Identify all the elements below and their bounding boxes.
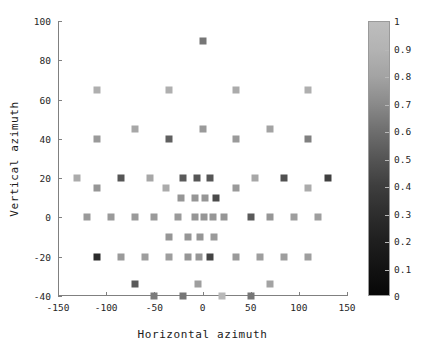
data-point [210,214,217,221]
colorbar-tick [385,160,389,161]
x-tick [299,292,300,296]
data-point [132,214,139,221]
y-tick [58,178,62,179]
y-tick [58,296,62,297]
data-point [191,214,198,221]
y-tick-label: 100 [0,16,51,27]
data-point [185,253,192,260]
data-point [218,293,225,300]
data-point [162,184,169,191]
data-point [185,234,192,241]
data-point [194,281,201,288]
y-tick [58,100,62,101]
data-point [305,184,312,191]
data-point [165,253,172,260]
colorbar-tick-label: 0.2 [394,236,411,247]
data-point [202,194,209,201]
data-point [175,214,182,221]
y-tick-label: 20 [0,173,51,184]
data-point [281,253,288,260]
data-point [74,175,81,182]
colorbar-tick-label: 0.5 [394,153,411,164]
data-point [146,175,153,182]
y-tick [58,21,62,22]
y-axis-line [58,21,59,296]
x-tick-label: -150 [47,302,70,313]
y-tick-label: 80 [0,55,51,66]
data-point [291,214,298,221]
data-point [207,175,214,182]
y-tick-label: 40 [0,133,51,144]
scatter-chart-figure: Vertical azimuth -150-100-50050100150 -4… [0,0,424,352]
colorbar-tick-label: 0.1 [394,263,411,274]
data-point [305,86,312,93]
data-point [247,293,254,300]
data-point [93,184,100,191]
y-tick-label: -20 [0,251,51,262]
data-point [196,234,203,241]
colorbar-tick-label: 0.6 [394,126,411,137]
data-point [107,214,114,221]
data-point [305,253,312,260]
data-point [117,175,124,182]
colorbar-tick-label: 0.4 [394,181,411,192]
colorbar-tick [385,215,389,216]
y-tick-label: 0 [0,212,51,223]
colorbar-tick [385,132,389,133]
data-point [93,86,100,93]
data-point [233,184,240,191]
data-point [191,194,198,201]
x-tick [347,292,348,296]
data-point [281,175,288,182]
colorbar-tick-label: 0.3 [394,208,411,219]
data-point [93,135,100,142]
data-point [195,253,202,260]
colorbar-tick [385,105,389,106]
colorbar-tick [385,242,389,243]
data-point [165,135,172,142]
x-tick-label: 0 [200,302,206,313]
colorbar-tick-label: 0.8 [394,71,411,82]
y-tick [58,60,62,61]
x-tick-label: -50 [146,302,163,313]
data-point [305,135,312,142]
data-point [180,175,187,182]
data-point [132,281,139,288]
data-point [141,253,148,260]
data-point [151,214,158,221]
colorbar-tick [385,187,389,188]
colorbar-tick-label: 0 [394,291,400,302]
colorbar-tick [385,270,389,271]
plot-area [58,21,347,296]
colorbar [368,21,390,296]
data-point [233,253,240,260]
data-point [132,126,139,133]
data-point [93,253,100,260]
y-tick [58,257,62,258]
x-tick [106,292,107,296]
data-point [117,253,124,260]
data-point [257,253,264,260]
data-point [193,175,200,182]
data-point [266,214,273,221]
data-point [165,86,172,93]
x-axis-label: Horizontal azimuth [58,328,347,341]
data-point [212,194,219,201]
data-point [207,253,214,260]
data-point [252,175,259,182]
x-tick [203,292,204,296]
y-tick-label: 60 [0,94,51,105]
data-point [220,214,227,221]
data-point [315,214,322,221]
data-point [180,293,187,300]
colorbar-tick-label: 1 [394,16,400,27]
data-point [83,214,90,221]
data-point [199,126,206,133]
data-point [178,194,185,201]
colorbar-tick [385,50,389,51]
data-point [165,234,172,241]
x-tick-label: 50 [245,302,256,313]
data-point [151,293,158,300]
colorbar-tick-label: 0.9 [394,43,411,54]
y-axis-label: Vertical azimuth [8,101,21,217]
